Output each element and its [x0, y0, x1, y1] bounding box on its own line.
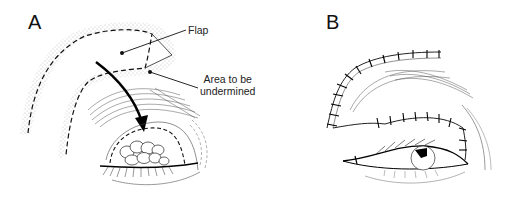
upper-lid — [343, 146, 468, 164]
eyelashes — [103, 167, 173, 177]
panel-letter-b: B — [326, 12, 339, 32]
panel-b: B — [255, 0, 510, 197]
lid-margin — [100, 163, 198, 167]
sutures-upper — [327, 50, 439, 126]
label-area-line2: undermined — [200, 85, 255, 97]
panel-a: A Flap Area to be undermined — [0, 0, 255, 197]
lid-suture-line — [333, 118, 466, 160]
panel-b-illustration — [255, 0, 510, 197]
panel-letter-a: A — [28, 12, 41, 32]
donor-suture-line — [327, 52, 441, 128]
fat-pads — [120, 141, 169, 165]
cheek-contour — [462, 105, 485, 170]
lower-lashes — [384, 170, 438, 178]
lower-lid — [343, 161, 468, 169]
label-area-to-be-undermined: Area to be undermined — [200, 73, 255, 97]
label-area-line1: Area to be — [200, 73, 255, 85]
area-leader — [150, 72, 198, 88]
lower-lid — [112, 172, 200, 185]
label-flap: Flap — [188, 24, 208, 36]
eyebrow-hatching — [350, 70, 473, 112]
